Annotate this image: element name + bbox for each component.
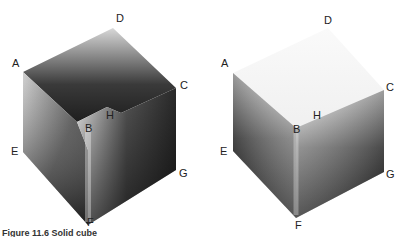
vertex-label-C: C — [386, 81, 394, 93]
figure-caption: Figure 11.6 Solid cube — [2, 228, 97, 237]
vertex-label-H: H — [313, 109, 321, 121]
vertex-label-D: D — [324, 14, 332, 26]
vertex-label-C: C — [180, 79, 188, 91]
vertex-label-F: F — [295, 219, 302, 231]
vertex-label-D: D — [116, 12, 124, 24]
vertex-label-B: B — [85, 122, 92, 134]
solid-cube — [233, 28, 384, 218]
vertex-label-H: H — [106, 109, 114, 121]
hollow-cube — [23, 28, 176, 225]
vertex-label-E: E — [220, 145, 227, 157]
vertex-label-E: E — [11, 145, 18, 157]
vertex-label-G: G — [386, 168, 395, 180]
vertex-label-B: B — [293, 123, 300, 135]
vertex-label-A: A — [12, 57, 20, 69]
figure-canvas: A D C H B E G F A D C H B E G F — [0, 0, 405, 237]
vertex-label-A: A — [221, 57, 229, 69]
vertex-label-F: F — [87, 216, 94, 228]
vertex-label-G: G — [179, 167, 188, 179]
